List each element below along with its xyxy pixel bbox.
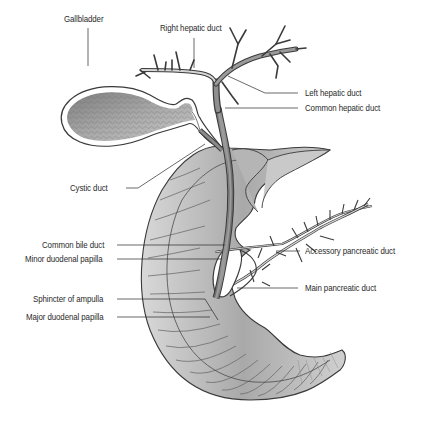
label-main-pancreatic-duct: Main pancreatic duct — [305, 283, 376, 293]
label-gallbladder: Gallbladder — [64, 14, 103, 24]
leader-left-hepatic-duct — [228, 76, 298, 93]
label-major-duodenal-papilla: Major duodenal papilla — [26, 312, 104, 322]
biliary-anatomy-illustration — [0, 0, 428, 435]
label-common-hepatic-duct: Common hepatic duct — [305, 103, 380, 113]
label-minor-duodenal-papilla: Minor duodenal papilla — [25, 254, 103, 264]
label-common-bile-duct: Common bile duct — [42, 240, 104, 250]
gallbladder — [61, 87, 222, 150]
label-sphincter-of-ampulla: Sphincter of ampulla — [33, 294, 103, 304]
label-left-hepatic-duct: Left hepatic duct — [305, 88, 361, 98]
duodenum — [141, 146, 345, 400]
label-accessory-pancreatic-duct: Accessory pancreatic duct — [305, 246, 395, 256]
hepatic-ducts — [136, 26, 306, 110]
label-cystic-duct: Cystic duct — [70, 183, 108, 193]
label-right-hepatic-duct: Right hepatic duct — [160, 23, 222, 33]
